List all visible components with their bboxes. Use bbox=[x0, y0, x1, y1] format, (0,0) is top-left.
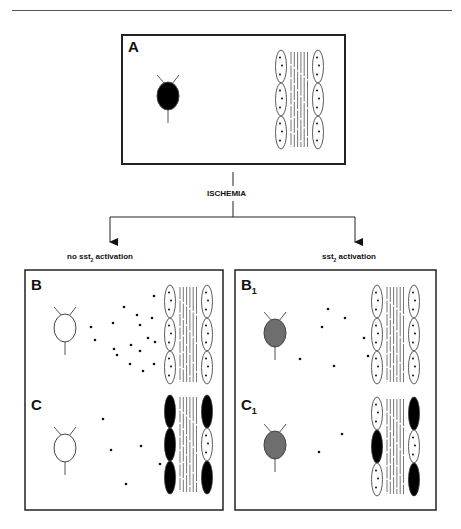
smooth-muscle-cell bbox=[202, 351, 213, 384]
panel-frame bbox=[122, 35, 345, 164]
peptide-dot bbox=[153, 363, 156, 366]
vessel-wall-icon bbox=[165, 395, 213, 494]
smooth-muscle-cell bbox=[276, 116, 287, 149]
panel-label-B1: B1 bbox=[241, 276, 257, 296]
peptide-dot bbox=[151, 317, 154, 320]
panel-label-C: C bbox=[31, 396, 42, 413]
smooth-muscle-cell bbox=[165, 428, 176, 461]
panel-A bbox=[122, 35, 345, 164]
smooth-muscle-cell bbox=[202, 285, 213, 318]
peptide-dot bbox=[116, 354, 119, 357]
neuron-icon bbox=[264, 424, 286, 472]
peptide-dot bbox=[123, 306, 126, 309]
smooth-muscle-cell bbox=[313, 50, 324, 83]
smooth-muscle-cell bbox=[372, 318, 383, 351]
peptide-dot bbox=[142, 370, 145, 373]
smooth-muscle-cell bbox=[372, 430, 383, 463]
no-sst2-activation-label: no sst2 activation bbox=[67, 252, 133, 263]
panel-label-A: A bbox=[128, 38, 139, 55]
peptide-dot bbox=[153, 295, 156, 298]
panel-subscript: 1 bbox=[252, 406, 257, 416]
smooth-muscle-cell bbox=[372, 397, 383, 430]
sst2-activation-label: sst2 activation bbox=[322, 252, 376, 263]
ischemia-label: ISCHEMIA bbox=[207, 189, 246, 198]
vessel-wall-icon bbox=[372, 397, 420, 496]
panel-letter: B bbox=[241, 276, 252, 293]
peptide-dot bbox=[139, 324, 142, 327]
smooth-muscle-cell bbox=[165, 461, 176, 494]
peptide-dot bbox=[321, 326, 324, 329]
smooth-muscle-cell bbox=[372, 351, 383, 384]
neuron-icon bbox=[54, 427, 76, 475]
smooth-muscle-cell bbox=[276, 50, 287, 83]
smooth-muscle-cell bbox=[372, 285, 383, 318]
vessel-wall-icon bbox=[276, 50, 324, 149]
peptide-dot bbox=[113, 348, 116, 351]
branch-suffix: activation bbox=[93, 252, 133, 261]
peptide-dot bbox=[344, 317, 347, 320]
panel-label-C1: C1 bbox=[241, 396, 257, 416]
smooth-muscle-cell bbox=[202, 395, 213, 428]
vessel-wall-icon bbox=[372, 285, 420, 384]
peptide-dot bbox=[129, 363, 132, 366]
panel-C1 bbox=[264, 397, 420, 496]
smooth-muscle-cell bbox=[409, 397, 420, 430]
smooth-muscle-cell bbox=[409, 285, 420, 318]
peptide-dot bbox=[299, 358, 302, 361]
smooth-muscle-cell bbox=[409, 318, 420, 351]
peptide-dot bbox=[341, 433, 344, 436]
peptide-dot bbox=[363, 337, 366, 340]
peptide-dot bbox=[94, 339, 97, 342]
peptide-dot bbox=[159, 463, 162, 466]
peptide-dot bbox=[130, 344, 133, 347]
panel-label-B: B bbox=[31, 276, 42, 293]
peptide-dot bbox=[125, 483, 128, 486]
panel-subscript: 1 bbox=[252, 286, 257, 296]
peptide-dot bbox=[147, 337, 150, 340]
peptide-dot bbox=[139, 350, 142, 353]
ischemia-diagram bbox=[0, 0, 461, 529]
peptide-dot bbox=[333, 365, 336, 368]
smooth-muscle-cell bbox=[165, 285, 176, 318]
panel-letter: B bbox=[31, 276, 42, 293]
smooth-muscle-cell bbox=[313, 116, 324, 149]
peptide-dot bbox=[102, 418, 105, 421]
branch-prefix: no sst bbox=[67, 252, 91, 261]
panel-B1 bbox=[264, 285, 420, 384]
smooth-muscle-cell bbox=[165, 351, 176, 384]
peptide-dot bbox=[90, 326, 93, 329]
smooth-muscle-cell bbox=[276, 83, 287, 116]
peptide-dot bbox=[110, 449, 113, 452]
smooth-muscle-cell bbox=[409, 463, 420, 496]
panel-letter: C bbox=[31, 396, 42, 413]
smooth-muscle-cell bbox=[165, 318, 176, 351]
neuron-icon bbox=[264, 312, 286, 360]
smooth-muscle-cell bbox=[409, 351, 420, 384]
right-group-frame bbox=[235, 270, 436, 510]
panel-letter: C bbox=[241, 396, 252, 413]
panel-letter: A bbox=[128, 38, 139, 55]
flow-connectors bbox=[110, 172, 355, 242]
smooth-muscle-cell bbox=[372, 463, 383, 496]
smooth-muscle-cell bbox=[409, 430, 420, 463]
vessel-wall-icon bbox=[165, 285, 213, 384]
smooth-muscle-cell bbox=[313, 83, 324, 116]
neuron-icon bbox=[157, 75, 179, 123]
neuron-icon bbox=[54, 307, 76, 355]
peptide-dot bbox=[136, 314, 139, 317]
branch-suffix: activation bbox=[336, 252, 376, 261]
peptide-dot bbox=[367, 355, 370, 358]
smooth-muscle-cell bbox=[202, 428, 213, 461]
panel-B bbox=[54, 285, 213, 384]
branch-prefix: sst bbox=[322, 252, 334, 261]
peptide-dot bbox=[327, 308, 330, 311]
smooth-muscle-cell bbox=[202, 318, 213, 351]
peptide-dot bbox=[112, 322, 115, 325]
peptide-dot bbox=[318, 451, 321, 454]
peptide-dot bbox=[154, 341, 157, 344]
panel-C bbox=[54, 395, 213, 494]
smooth-muscle-cell bbox=[202, 461, 213, 494]
peptide-dot bbox=[140, 445, 143, 448]
smooth-muscle-cell bbox=[165, 395, 176, 428]
